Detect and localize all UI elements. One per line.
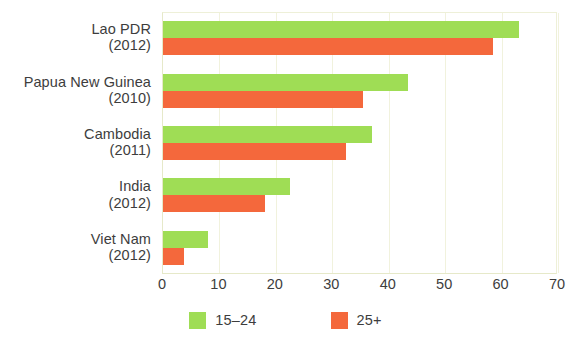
legend-label: 15–24 xyxy=(215,312,256,328)
category-name: India xyxy=(108,178,151,194)
bar-group xyxy=(163,74,556,108)
bar-young xyxy=(163,178,290,195)
category-year: (2012) xyxy=(108,195,151,211)
category-name: Cambodia xyxy=(84,126,151,142)
x-tick-label: 60 xyxy=(492,276,508,292)
bar-older xyxy=(163,143,346,160)
category-name: Viet Nam xyxy=(91,231,151,247)
bar-young xyxy=(163,74,408,91)
bar-young xyxy=(163,231,208,248)
bar-older xyxy=(163,38,493,55)
legend-item: 25+ xyxy=(331,312,382,329)
bar-older xyxy=(163,195,265,212)
category-year: (2012) xyxy=(91,37,151,53)
category-label: Lao PDR(2012) xyxy=(91,21,151,53)
category-year: (2011) xyxy=(84,142,151,158)
x-tick-label: 70 xyxy=(549,276,565,292)
category-label: Cambodia(2011) xyxy=(84,126,151,158)
bar-chart: Lao PDR(2012)Papua New Guinea(2010)Cambo… xyxy=(0,0,571,338)
legend-item: 15–24 xyxy=(189,312,256,329)
bar-group xyxy=(163,231,556,265)
category-axis: Lao PDR(2012)Papua New Guinea(2010)Cambo… xyxy=(0,12,157,274)
bar-group xyxy=(163,21,556,55)
legend-label: 25+ xyxy=(357,312,382,328)
x-tick-label: 30 xyxy=(323,276,339,292)
bar-older xyxy=(163,248,184,265)
category-label: Viet Nam(2012) xyxy=(91,231,151,263)
x-axis: 010203040506070 xyxy=(162,276,557,300)
category-name: Papua New Guinea xyxy=(24,74,151,90)
bar-young xyxy=(163,21,519,38)
category-year: (2012) xyxy=(91,247,151,263)
x-tick-label: 50 xyxy=(436,276,452,292)
legend-swatch-icon xyxy=(331,312,348,329)
bar-group xyxy=(163,178,556,212)
bar-group xyxy=(163,126,556,160)
plot-area xyxy=(162,12,557,274)
category-year: (2010) xyxy=(24,90,151,106)
legend-swatch-icon xyxy=(189,312,206,329)
bar-young xyxy=(163,126,372,143)
x-tick-label: 0 xyxy=(158,276,166,292)
bar-older xyxy=(163,91,363,108)
category-label: India(2012) xyxy=(108,178,151,210)
x-tick-label: 20 xyxy=(267,276,283,292)
category-name: Lao PDR xyxy=(91,21,151,37)
x-tick-label: 40 xyxy=(380,276,396,292)
chart-legend: 15–2425+ xyxy=(0,306,571,334)
category-label: Papua New Guinea(2010) xyxy=(24,74,151,106)
gridline xyxy=(558,13,559,273)
x-tick-label: 10 xyxy=(210,276,226,292)
